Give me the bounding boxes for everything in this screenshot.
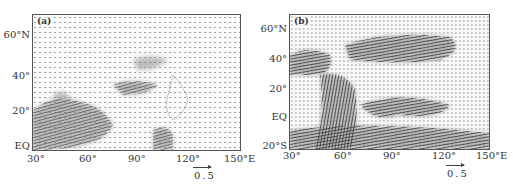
xtick-b-90: 90° — [383, 151, 401, 161]
panel-b-label: (b) — [293, 16, 310, 26]
xtick-b-120: 120° — [432, 151, 456, 161]
panel-a-reference-value: 0.5 — [194, 170, 216, 181]
panel-b-reference-value: 0.5 — [447, 168, 469, 179]
ytick-b-20: 20° — [257, 84, 287, 94]
xtick-b-150e: 150°E — [476, 151, 507, 161]
ytick-b-60n: 60°N — [257, 24, 287, 34]
xtick-a-90: 90° — [128, 154, 146, 164]
xtick-a-60: 60° — [79, 154, 97, 164]
panel-b-vector-field — [290, 15, 489, 149]
panel-a-label: (a) — [36, 16, 52, 26]
ytick-a-20: 20° — [0, 106, 30, 116]
xtick-a-30: 30° — [27, 154, 45, 164]
ytick-a-40: 40° — [0, 71, 30, 81]
reference-arrow-icon — [193, 167, 211, 168]
ytick-a-eq: EQ — [0, 141, 30, 151]
xtick-b-30: 30° — [283, 151, 301, 161]
panel-b-plot-area: (b) — [289, 14, 490, 150]
panel-a-vector-field — [33, 15, 240, 150]
ytick-b-eq: EQ — [257, 112, 287, 122]
xtick-a-150e: 150°E — [224, 154, 255, 164]
panel-a-plot-area: (a) — [32, 14, 241, 151]
reference-arrow-icon — [446, 165, 464, 166]
xtick-a-120: 120° — [176, 154, 200, 164]
ytick-a-60n: 60°N — [0, 30, 30, 40]
xtick-b-60: 60° — [334, 151, 352, 161]
ytick-b-40: 40° — [257, 54, 287, 64]
